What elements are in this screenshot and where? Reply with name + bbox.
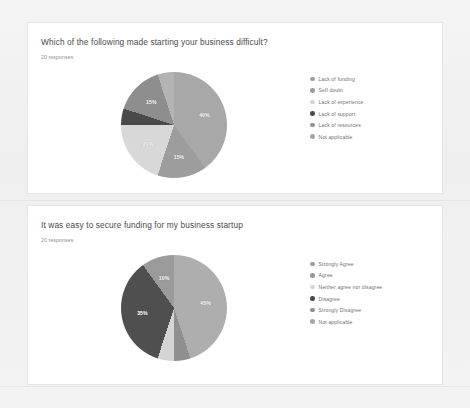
legend-item[interactable]: Lack of resources	[310, 119, 364, 131]
legend-item[interactable]: Strongly Disagree	[310, 304, 382, 316]
scan-seam	[0, 386, 470, 387]
legend-swatch-icon	[310, 285, 315, 290]
legend-swatch-icon	[310, 308, 315, 313]
legend-swatch-icon	[310, 111, 315, 116]
legend-swatch-icon	[310, 273, 315, 278]
legend-label: Agree	[319, 272, 333, 278]
legend-item[interactable]: Disagree	[310, 293, 382, 305]
legend-item[interactable]: Not applicable	[310, 316, 382, 328]
pie-graphic	[121, 72, 227, 178]
legend-item[interactable]: Agree	[310, 270, 382, 282]
legend-item[interactable]: Strongly Agree	[310, 258, 382, 270]
legend-item[interactable]: Neither agree nor disagree	[310, 281, 382, 293]
legend-swatch-icon	[310, 77, 315, 82]
legend-2: Strongly AgreeAgreeNeither agree nor dis…	[310, 258, 382, 328]
pie-slice-label: 10%	[159, 275, 170, 281]
legend-label: Lack of experience	[319, 99, 364, 105]
legend-swatch-icon	[310, 296, 315, 301]
pie-slice-label: 40%	[199, 112, 210, 118]
legend-item[interactable]: Self doubt	[310, 85, 364, 97]
legend-label: Self doubt	[319, 87, 343, 93]
legend-1: Lack of fundingSelf doubtLack of experie…	[310, 73, 364, 143]
question-card-2: It was easy to secure funding for my bus…	[27, 205, 443, 385]
legend-swatch-icon	[310, 262, 315, 267]
pie-chart-1: 40%15%20%15%	[113, 67, 235, 183]
pie-slice-label: 35%	[137, 310, 148, 316]
pie-chart-2: 45%35%10%	[113, 250, 235, 366]
legend-item[interactable]: Lack of funding	[310, 73, 364, 85]
legend-swatch-icon	[310, 88, 315, 93]
legend-item[interactable]: Lack of support	[310, 108, 364, 120]
question-card-1: Which of the following made starting you…	[27, 22, 443, 194]
pie-graphic	[121, 255, 227, 361]
pie-slice-label: 15%	[174, 154, 185, 160]
legend-label: Neither agree nor disagree	[319, 284, 383, 290]
page-title: Which of the following made starting you…	[41, 37, 268, 47]
legend-label: Strongly Disagree	[319, 307, 362, 313]
legend-swatch-icon	[310, 319, 315, 324]
response-count: 20 responses	[41, 237, 73, 243]
legend-label: Lack of resources	[319, 122, 361, 128]
legend-item[interactable]: Not applicable	[310, 131, 364, 143]
scan-seam	[0, 200, 470, 201]
legend-label: Not applicable	[319, 134, 353, 140]
legend-label: Disagree	[319, 296, 340, 302]
pie-slice-label: 15%	[146, 99, 157, 105]
legend-label: Lack of funding	[319, 76, 355, 82]
page-title: It was easy to secure funding for my bus…	[41, 220, 243, 230]
pie-slice-label: 20%	[143, 141, 154, 147]
legend-swatch-icon	[310, 123, 315, 128]
legend-item[interactable]: Lack of experience	[310, 96, 364, 108]
legend-swatch-icon	[310, 100, 315, 105]
response-count: 20 responses	[41, 54, 73, 60]
legend-label: Lack of support	[319, 111, 356, 117]
legend-label: Strongly Agree	[319, 261, 354, 267]
legend-label: Not applicable	[319, 319, 353, 325]
pie-slice-label: 45%	[200, 300, 211, 306]
legend-swatch-icon	[310, 134, 315, 139]
